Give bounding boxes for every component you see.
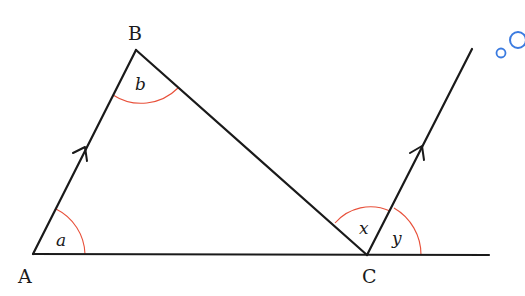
point-label-B: B xyxy=(128,22,142,44)
angle-label-a: a xyxy=(56,230,66,250)
point-label-C: C xyxy=(362,265,377,287)
side-AC-extended xyxy=(33,254,489,255)
parallel-ray-from-C xyxy=(367,49,472,255)
angle-label-y: y xyxy=(391,228,402,248)
side-BC xyxy=(136,50,367,255)
geometry-diagram: B A C a b x y xyxy=(0,0,525,296)
angle-label-b: b xyxy=(135,74,146,94)
point-label-A: A xyxy=(17,265,32,287)
thought-bubble-icon xyxy=(497,32,525,58)
side-AB xyxy=(33,50,136,254)
angle-label-x: x xyxy=(359,218,369,238)
